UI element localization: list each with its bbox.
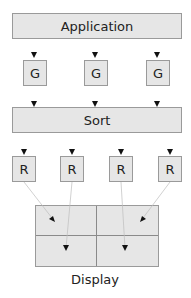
display-connectors [0, 0, 191, 298]
arrow-icon [49, 216, 55, 222]
arrow-icon [122, 245, 128, 251]
arrow-icon [63, 245, 69, 251]
display-label: Display [60, 272, 130, 287]
arrow-icon [140, 216, 146, 222]
